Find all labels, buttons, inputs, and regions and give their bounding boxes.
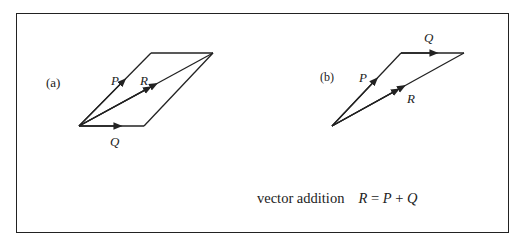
- eq-P: P: [383, 190, 392, 206]
- arrow-P-b: [332, 81, 375, 127]
- panel-b-triangle: [332, 53, 464, 126]
- figure-caption: vector additionR = P + Q: [257, 190, 417, 207]
- vector-diagram: [0, 0, 528, 247]
- panel-a-tag: (a): [46, 76, 60, 89]
- side-right-a: [144, 53, 213, 126]
- label-R-a: R: [140, 74, 148, 87]
- label-R-b: R: [407, 92, 415, 105]
- eq-plus: +: [392, 190, 407, 206]
- arrow-R-a-2: [79, 85, 154, 126]
- eq-Q: Q: [407, 190, 417, 206]
- label-Q-a: Q: [110, 135, 119, 148]
- arrow-P-a: [79, 81, 123, 126]
- eq-equals: =: [367, 190, 382, 206]
- panel-b-tag: (b): [320, 71, 334, 83]
- caption-text: vector addition: [257, 190, 344, 206]
- panel-a-parallelogram: [79, 53, 213, 126]
- arrow-R-b-2: [332, 87, 402, 126]
- label-P-a: P: [111, 74, 119, 87]
- eq-R: R: [358, 190, 367, 206]
- label-Q-b: Q: [424, 31, 433, 44]
- caption-equation: R = P + Q: [358, 190, 417, 206]
- label-P-b: P: [359, 71, 367, 84]
